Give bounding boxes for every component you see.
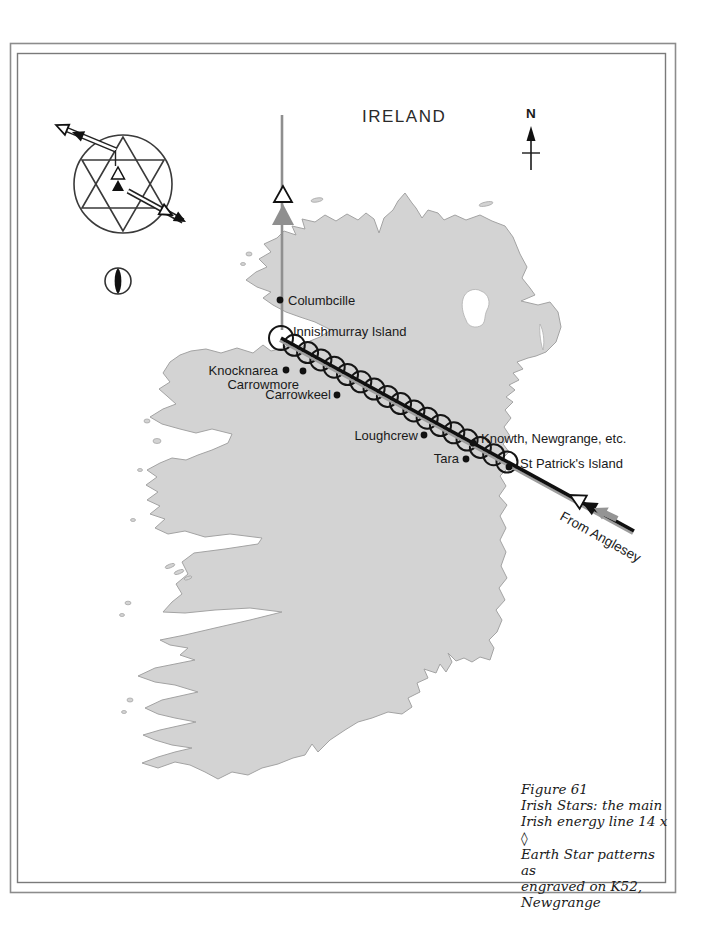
emblem-triangle-up	[82, 137, 164, 208]
open-arrowhead-icon	[56, 125, 69, 135]
site-dot	[506, 464, 513, 471]
emblem-triangle-down	[82, 160, 164, 231]
site-dot	[334, 392, 341, 399]
caption-line: Figure 61	[521, 781, 671, 797]
emblem-circle	[74, 135, 172, 233]
caption-line: Earth Star patterns as	[521, 846, 671, 878]
hexagram-star-icon	[56, 125, 186, 233]
place-label: Tara	[434, 451, 460, 466]
caption-line: Newgrange	[521, 894, 671, 910]
place-label: Knocknarea	[209, 363, 279, 378]
site-dot	[463, 456, 470, 463]
north-label: N	[526, 106, 536, 121]
site-dot	[421, 432, 428, 439]
place-label: Loughcrew	[354, 428, 418, 443]
place-label: Carrowkeel	[265, 387, 331, 402]
site-dot	[277, 297, 284, 304]
map-title: IRELAND	[362, 107, 446, 126]
place-label: Knowth, Newgrange, etc.	[481, 431, 626, 446]
place-label: Innishmurray Island	[293, 324, 406, 339]
vesica-lens	[115, 268, 122, 294]
place-label: St Patrick's Island	[520, 456, 623, 471]
small-solid-triangle-icon	[112, 180, 124, 191]
vesica-icon	[105, 268, 131, 294]
caption-line: Irish Stars: the main	[521, 797, 671, 813]
place-label: Columbcille	[288, 293, 355, 308]
ireland-landmass	[138, 193, 561, 779]
north-indicator: N	[522, 106, 540, 170]
north-arrowhead-icon	[527, 126, 536, 141]
site-dot	[283, 367, 290, 374]
small-open-triangle-icon	[112, 167, 125, 179]
caption-line: engraved on K52,	[521, 878, 671, 894]
open-triangle-marker-icon	[274, 186, 292, 202]
caption-line: Irish energy line 14 x ◊	[521, 813, 671, 845]
figure-caption: Figure 61 Irish Stars: the main Irish en…	[521, 781, 671, 911]
gray-arrow-icon	[272, 204, 294, 225]
site-dot	[470, 440, 477, 447]
site-dot	[300, 368, 307, 375]
emblem-arrow-shaft-nw-core	[63, 128, 116, 150]
emblem-arrow-shaft-se-core	[128, 191, 183, 221]
